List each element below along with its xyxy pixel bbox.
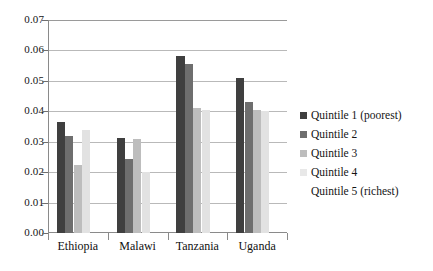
bar bbox=[117, 138, 125, 233]
legend-swatch-icon bbox=[300, 112, 307, 119]
legend-item-label: Quintile 1 (poorest) bbox=[311, 110, 402, 122]
bar bbox=[142, 172, 150, 233]
bar-group bbox=[117, 20, 159, 233]
legend-item: Quintile 2 bbox=[300, 125, 402, 144]
legend-item-label: Quintile 4 bbox=[311, 167, 357, 179]
legend-item-label: Quintile 5 (richest) bbox=[311, 186, 399, 198]
bar-chart: 0.000.010.020.030.040.050.060.07 Ethiopi… bbox=[0, 0, 433, 271]
y-axis-tick-label: 0.01 bbox=[4, 197, 44, 208]
bar bbox=[245, 102, 253, 233]
legend-item-label: Quintile 3 bbox=[311, 148, 357, 160]
bar bbox=[253, 110, 261, 233]
x-axis-category-label: Uganda bbox=[227, 240, 287, 253]
bar bbox=[133, 139, 141, 233]
bar-group bbox=[57, 20, 99, 233]
legend-item: Quintile 5 (richest) bbox=[300, 182, 402, 201]
y-axis-tick-label: 0.00 bbox=[4, 227, 44, 238]
legend-swatch-icon bbox=[300, 169, 307, 176]
legend-swatch-icon bbox=[300, 188, 307, 195]
bar-group bbox=[236, 20, 278, 233]
bar-group bbox=[176, 20, 218, 233]
bar bbox=[57, 122, 65, 233]
x-axis-category-label: Malawi bbox=[108, 240, 168, 253]
bar bbox=[176, 56, 184, 233]
x-axis-tick-mark bbox=[168, 233, 169, 240]
x-axis-tick-mark bbox=[108, 233, 109, 240]
y-axis-tick-label: 0.02 bbox=[4, 166, 44, 177]
y-axis-tick-label: 0.06 bbox=[4, 44, 44, 55]
bar bbox=[185, 64, 193, 233]
legend-item-label: Quintile 2 bbox=[311, 129, 357, 141]
bar bbox=[65, 136, 73, 233]
x-axis-tick-mark bbox=[48, 233, 49, 240]
bar bbox=[193, 108, 201, 233]
bar bbox=[202, 110, 210, 233]
y-axis-tick-label: 0.05 bbox=[4, 75, 44, 86]
x-axis-category-label: Tanzania bbox=[168, 240, 228, 253]
legend-item: Quintile 1 (poorest) bbox=[300, 106, 402, 125]
legend-swatch-icon bbox=[300, 131, 307, 138]
x-axis-tick-mark bbox=[227, 233, 228, 240]
legend-swatch-icon bbox=[300, 150, 307, 157]
bar bbox=[236, 78, 244, 233]
legend: Quintile 1 (poorest)Quintile 2Quintile 3… bbox=[300, 106, 402, 201]
x-axis-tick-mark bbox=[287, 233, 288, 240]
bar bbox=[74, 165, 82, 233]
legend-item: Quintile 4 bbox=[300, 163, 402, 182]
legend-item: Quintile 3 bbox=[300, 144, 402, 163]
y-axis-tick-label: 0.07 bbox=[4, 14, 44, 25]
y-axis-tick-label: 0.04 bbox=[4, 105, 44, 116]
x-axis-category-label: Ethiopia bbox=[48, 240, 108, 253]
y-axis-tick-label: 0.03 bbox=[4, 136, 44, 147]
bar bbox=[125, 159, 133, 233]
bar bbox=[82, 130, 90, 233]
bar bbox=[261, 111, 269, 233]
